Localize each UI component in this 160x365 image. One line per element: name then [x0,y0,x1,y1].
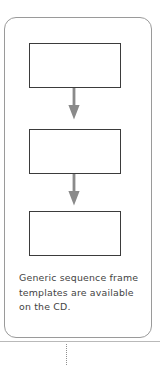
sequence-box-1[interactable] [29,43,121,88]
arrow-down-icon [67,88,81,120]
dotted-connector-line [66,344,67,365]
sequence-box-3[interactable] [29,211,121,256]
arrow-down-icon [67,174,81,206]
horizontal-rule [0,341,160,342]
sequence-frame-container: Generic sequence frame templates are ava… [4,17,152,338]
caption-text: Generic sequence frame templates are ava… [19,271,145,315]
sequence-box-2[interactable] [29,129,121,174]
